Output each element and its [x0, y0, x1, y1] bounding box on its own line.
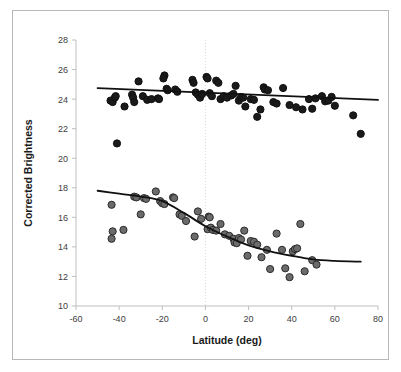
data-point [350, 112, 357, 119]
data-point [273, 230, 280, 237]
data-point [108, 201, 115, 208]
data-point [297, 220, 304, 227]
y-tick-label: 16 [58, 213, 68, 223]
y-tick-label: 26 [58, 65, 68, 75]
data-point [264, 87, 271, 94]
y-tick-label: 18 [58, 183, 68, 193]
data-point [194, 208, 201, 215]
data-point [278, 246, 285, 253]
data-point [250, 96, 257, 103]
data-point [232, 82, 239, 89]
x-tick-label: -20 [156, 314, 169, 324]
series-upper [107, 72, 364, 147]
data-point [273, 100, 280, 107]
data-point [279, 84, 286, 91]
data-point [152, 188, 159, 195]
data-point [109, 228, 116, 235]
scatter-chart: 10121416182022242628-60-40-20020406080La… [0, 0, 401, 372]
data-point [121, 103, 128, 110]
y-tick-label: 12 [58, 272, 68, 282]
data-point [112, 93, 119, 100]
data-point [182, 217, 189, 224]
x-axis-title: Latitude (deg) [192, 334, 261, 346]
x-tick-label: -60 [69, 314, 82, 324]
data-point [258, 254, 265, 261]
x-tick-label: -40 [113, 314, 126, 324]
data-point [135, 78, 142, 85]
data-point [299, 106, 306, 113]
y-tick-label: 28 [58, 35, 68, 45]
data-point [204, 75, 211, 82]
y-tick-label: 22 [58, 124, 68, 134]
data-point [331, 102, 338, 109]
data-point [257, 106, 264, 113]
x-tick-label: 80 [373, 314, 383, 324]
data-point [215, 79, 222, 86]
data-point [113, 140, 120, 147]
data-point [282, 265, 289, 272]
data-point [137, 211, 144, 218]
data-point [254, 113, 261, 120]
data-point [313, 261, 320, 268]
y-tick-label: 14 [58, 242, 68, 252]
x-tick-label: 20 [244, 314, 254, 324]
data-point [199, 90, 206, 97]
x-tick-label: 40 [287, 314, 297, 324]
y-axis-title: Corrected Brightness [22, 119, 34, 227]
data-point [217, 220, 224, 227]
data-point [155, 96, 162, 103]
data-point [357, 130, 364, 137]
data-point [244, 252, 251, 259]
data-point [190, 79, 197, 86]
data-point [241, 227, 248, 234]
data-point [309, 105, 316, 112]
data-point [294, 245, 301, 252]
data-point [286, 274, 293, 281]
data-point [131, 98, 138, 105]
data-point [267, 265, 274, 272]
data-point [301, 268, 308, 275]
y-tick-label: 20 [58, 154, 68, 164]
data-point [160, 75, 167, 82]
x-tick-label: 60 [330, 314, 340, 324]
y-tick-label: 24 [58, 95, 68, 105]
data-point [242, 103, 249, 110]
data-point [171, 195, 178, 202]
y-tick-label: 10 [58, 301, 68, 311]
series-lower [108, 188, 320, 281]
data-point [108, 235, 115, 242]
x-tick-label: 0 [203, 314, 208, 324]
data-point [206, 214, 213, 221]
figure-container: 10121416182022242628-60-40-20020406080La… [0, 0, 401, 372]
data-point [120, 226, 127, 233]
data-point [191, 233, 198, 240]
